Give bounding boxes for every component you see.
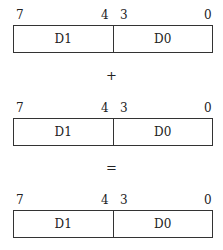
bit-label-3: 3 xyxy=(120,8,128,22)
bit-label-0: 0 xyxy=(204,193,212,207)
bit-label-4: 4 xyxy=(101,101,109,115)
register-box: D1 D0 xyxy=(13,118,213,146)
bit-label-3: 3 xyxy=(120,101,128,115)
nibble-high: D1 xyxy=(14,211,114,237)
nibble-low: D0 xyxy=(114,119,213,145)
nibble-low: D0 xyxy=(114,26,213,52)
nibble-high: D1 xyxy=(14,119,114,145)
plus-operator: + xyxy=(0,68,223,83)
register-1: 7 4 3 0 D1 D0 xyxy=(13,25,213,53)
bit-label-4: 4 xyxy=(101,8,109,22)
register-box: D1 D0 xyxy=(13,25,213,53)
bit-label-4: 4 xyxy=(101,193,109,207)
bit-label-0: 0 xyxy=(204,101,212,115)
bit-label-0: 0 xyxy=(204,8,212,22)
equals-operator: = xyxy=(0,160,223,175)
bit-label-7: 7 xyxy=(16,101,24,115)
register-box: D1 D0 xyxy=(13,210,213,238)
nibble-high: D1 xyxy=(14,26,114,52)
register-2: 7 4 3 0 D1 D0 xyxy=(13,118,213,146)
bit-label-3: 3 xyxy=(120,193,128,207)
register-3: 7 4 3 0 D1 D0 xyxy=(13,210,213,238)
nibble-low: D0 xyxy=(114,211,213,237)
bit-label-7: 7 xyxy=(16,193,24,207)
bit-label-7: 7 xyxy=(16,8,24,22)
